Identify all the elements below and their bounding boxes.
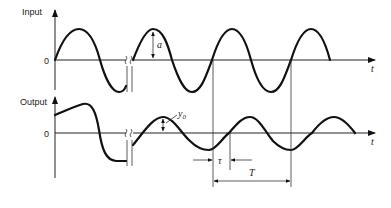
output-axis-label: Output <box>20 97 48 107</box>
amplitude-a-label: a <box>157 39 162 50</box>
input-zero-label: 0 <box>44 56 49 66</box>
output-zero-label: 0 <box>44 129 49 139</box>
period-T-label: T <box>249 167 256 178</box>
output-t-label: t <box>371 136 374 147</box>
timing-annotations: τ T <box>193 60 291 187</box>
output-panel: Output 0 t y0 <box>20 97 375 178</box>
input-t-label: t <box>371 63 374 74</box>
lag-tau-label: τ <box>218 155 222 166</box>
input-panel: Input 0 t a <box>22 7 375 92</box>
input-axis-label: Input <box>22 7 43 17</box>
output-wave-segment-1 <box>55 104 126 161</box>
amplitude-y0-label: y0 <box>177 108 186 121</box>
waveform-diagram: Input 0 t a Output 0 t <box>0 0 391 208</box>
